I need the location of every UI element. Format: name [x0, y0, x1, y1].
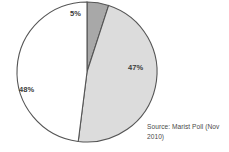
pie-slice-label-48: 48% [19, 86, 34, 94]
pie-slice-48 [17, 2, 87, 141]
pie-slice-label-47: 47% [128, 64, 143, 72]
pie-slice-label-5: 5% [70, 10, 81, 18]
pie-chart-figure: 47% 48% 5% Source: Marist Poll (Nov 2010… [0, 0, 229, 152]
source-annotation: Source: Marist Poll (Nov 2010) [147, 122, 225, 142]
